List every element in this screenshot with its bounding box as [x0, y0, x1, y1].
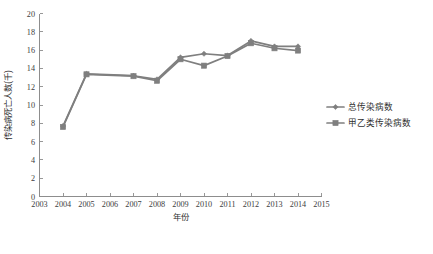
y-tick-label: 16	[27, 46, 35, 55]
y-tick-label: 4	[31, 156, 35, 165]
x-tick-label: 2008	[149, 200, 165, 209]
x-tick-label: 2012	[243, 200, 259, 209]
y-tick-label: 8	[31, 119, 35, 128]
series-line-1	[63, 41, 298, 126]
y-tick-label: 12	[27, 83, 35, 92]
data-point-series-1	[201, 51, 206, 56]
x-tick-label: 2004	[55, 200, 71, 209]
x-tick-label: 2010	[196, 200, 212, 209]
x-tick-label: 2005	[78, 200, 94, 209]
y-tick-label: 14	[27, 64, 35, 73]
y-tick-label: 6	[31, 138, 35, 147]
x-tick-label: 2007	[125, 200, 141, 209]
x-tick-label: 2013	[266, 200, 282, 209]
legend-marker-2	[333, 120, 338, 125]
y-tick-label: 10	[27, 101, 35, 110]
x-tick-label: 2003	[31, 200, 47, 209]
infectious-disease-death-line-chart: 传染病死亡人数(千)024681012141618202003200420052…	[0, 0, 433, 254]
data-point-series-2	[201, 63, 206, 68]
chart-canvas: 传染病死亡人数(千)024681012141618202003200420052…	[0, 0, 433, 254]
y-tick-label: 2	[31, 174, 35, 183]
y-tick-label: 18	[27, 28, 35, 37]
legend-label-2: 甲乙类传染病数	[348, 117, 411, 128]
legend-marker-1	[333, 104, 338, 109]
x-tick-label: 2009	[172, 200, 188, 209]
x-tick-label: 2014	[290, 200, 306, 209]
y-axis-title: 传染病死亡人数(千)	[3, 70, 13, 140]
y-tick-label: 20	[27, 10, 35, 19]
legend-label-1: 总传染病数	[348, 101, 393, 112]
x-tick-label: 2006	[102, 200, 118, 209]
x-tick-label: 2011	[219, 200, 235, 209]
x-tick-label: 2015	[313, 200, 329, 209]
x-axis-title: 年份	[173, 212, 190, 222]
